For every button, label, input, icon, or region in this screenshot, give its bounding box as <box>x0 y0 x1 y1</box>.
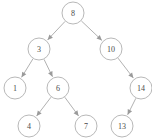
tree-node-4[interactable]: 4 <box>18 115 40 137</box>
node-label: 13 <box>118 122 126 131</box>
tree-node-3[interactable]: 3 <box>28 38 50 60</box>
tree-node-8[interactable]: 8 <box>62 2 84 24</box>
edge-arrowhead <box>74 110 79 116</box>
edges-group <box>22 21 136 116</box>
node-label: 10 <box>107 45 115 54</box>
node-label: 3 <box>37 45 41 54</box>
tree-canvas: 831016144713 <box>0 0 152 138</box>
node-label: 14 <box>137 84 145 93</box>
tree-node-7[interactable]: 7 <box>75 115 97 137</box>
tree-edge <box>118 58 133 78</box>
node-label: 1 <box>13 84 17 93</box>
edge-arrowhead <box>37 110 42 116</box>
binary-tree-diagram: 831016144713 <box>0 0 152 138</box>
tree-edge <box>65 97 79 116</box>
edge-arrowhead <box>22 72 27 78</box>
tree-edge <box>37 97 51 116</box>
tree-edge <box>22 59 33 78</box>
node-label: 4 <box>27 122 31 131</box>
tree-node-13[interactable]: 13 <box>111 115 133 137</box>
tree-edge <box>81 21 102 40</box>
tree-node-14[interactable]: 14 <box>130 77 152 99</box>
tree-node-6[interactable]: 6 <box>47 77 69 99</box>
tree-node-1[interactable]: 1 <box>4 77 26 99</box>
tree-node-10[interactable]: 10 <box>100 38 122 60</box>
tree-edge <box>128 98 136 115</box>
tree-edge <box>48 21 66 40</box>
tree-edge <box>44 59 52 76</box>
edge-arrowhead <box>128 73 133 79</box>
node-label: 7 <box>84 122 88 131</box>
node-label: 8 <box>71 9 75 18</box>
node-label: 6 <box>56 84 60 93</box>
